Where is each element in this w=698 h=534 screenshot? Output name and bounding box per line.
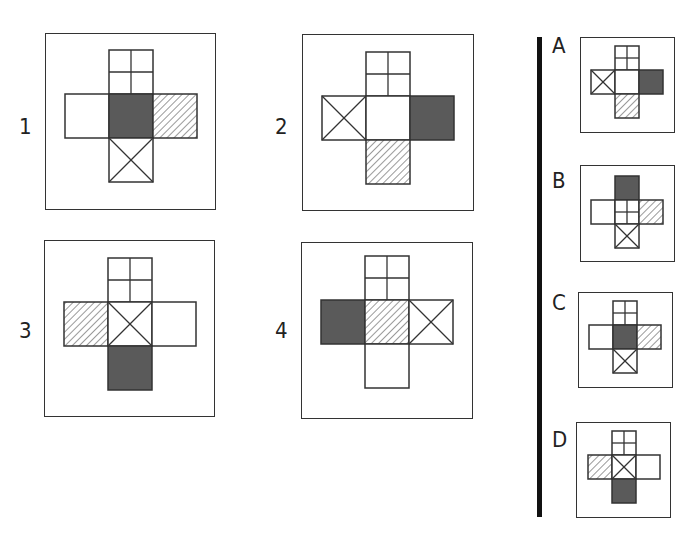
- puzzle-net-2: [322, 52, 454, 184]
- puzzle-net-1: [65, 50, 197, 182]
- puzzle-net-3-left-hatch-face: [64, 302, 108, 346]
- option-net-a: [591, 46, 663, 118]
- puzzle-net-2-right-dark-face: [410, 96, 454, 140]
- option-net-d-bottom-dark-face: [612, 479, 636, 503]
- puzzle-net-1-center-dark-face: [109, 94, 153, 138]
- puzzle-net-4-right-x-face: [409, 300, 453, 344]
- puzzle-net-4-center-hatch-face: [365, 300, 409, 344]
- option-net-b-left-blank-face: [591, 200, 615, 224]
- option-net-c-bottom-x-face: [613, 349, 637, 373]
- option-net-c-top-grid-face: [613, 301, 637, 325]
- puzzle-net-4-left-dark-face: [321, 300, 365, 344]
- puzzle-net-2-left-x-face: [322, 96, 366, 140]
- option-net-a-top-grid-face: [615, 46, 639, 70]
- option-net-a-bottom-hatch-face: [615, 94, 639, 118]
- puzzle-net-3-right-blank-face: [152, 302, 196, 346]
- option-net-a-center-blank-face: [615, 70, 639, 94]
- puzzle-net-2-center-blank-face: [366, 96, 410, 140]
- option-net-b-right-hatch-face: [639, 200, 663, 224]
- option-net-b-bottom-x-face: [615, 224, 639, 248]
- option-net-d-right-blank-face: [636, 455, 660, 479]
- option-net-b-center-grid-face: [615, 200, 639, 224]
- puzzle-net-3: [64, 258, 196, 390]
- puzzle-net-1-bottom-x-face: [109, 138, 153, 182]
- option-net-a-left-x-face: [591, 70, 615, 94]
- option-net-c-left-blank-face: [589, 325, 613, 349]
- puzzle-net-4: [321, 256, 453, 388]
- option-net-b: [591, 176, 663, 248]
- puzzle-net-1-right-hatch-face: [153, 94, 197, 138]
- puzzle-net-1-left-blank-face: [65, 94, 109, 138]
- option-net-c-center-dark-face: [613, 325, 637, 349]
- option-net-d-top-grid-face: [612, 431, 636, 455]
- puzzle-net-1-top-grid-face: [109, 50, 153, 94]
- puzzle-canvas: [0, 0, 698, 534]
- option-net-c: [589, 301, 661, 373]
- puzzle-net-4-top-grid-face: [365, 256, 409, 300]
- puzzle-net-2-top-grid-face: [366, 52, 410, 96]
- puzzle-net-3-top-grid-face: [108, 258, 152, 302]
- option-net-c-right-hatch-face: [637, 325, 661, 349]
- option-net-d-center-x-face: [612, 455, 636, 479]
- puzzle-net-3-center-x-face: [108, 302, 152, 346]
- puzzle-net-4-bottom-blank-face: [365, 344, 409, 388]
- option-net-b-top-dark-face: [615, 176, 639, 200]
- option-net-d: [588, 431, 660, 503]
- option-net-a-right-dark-face: [639, 70, 663, 94]
- option-net-d-left-hatch-face: [588, 455, 612, 479]
- puzzle-net-3-bottom-dark-face: [108, 346, 152, 390]
- puzzle-net-2-bottom-hatch-face: [366, 140, 410, 184]
